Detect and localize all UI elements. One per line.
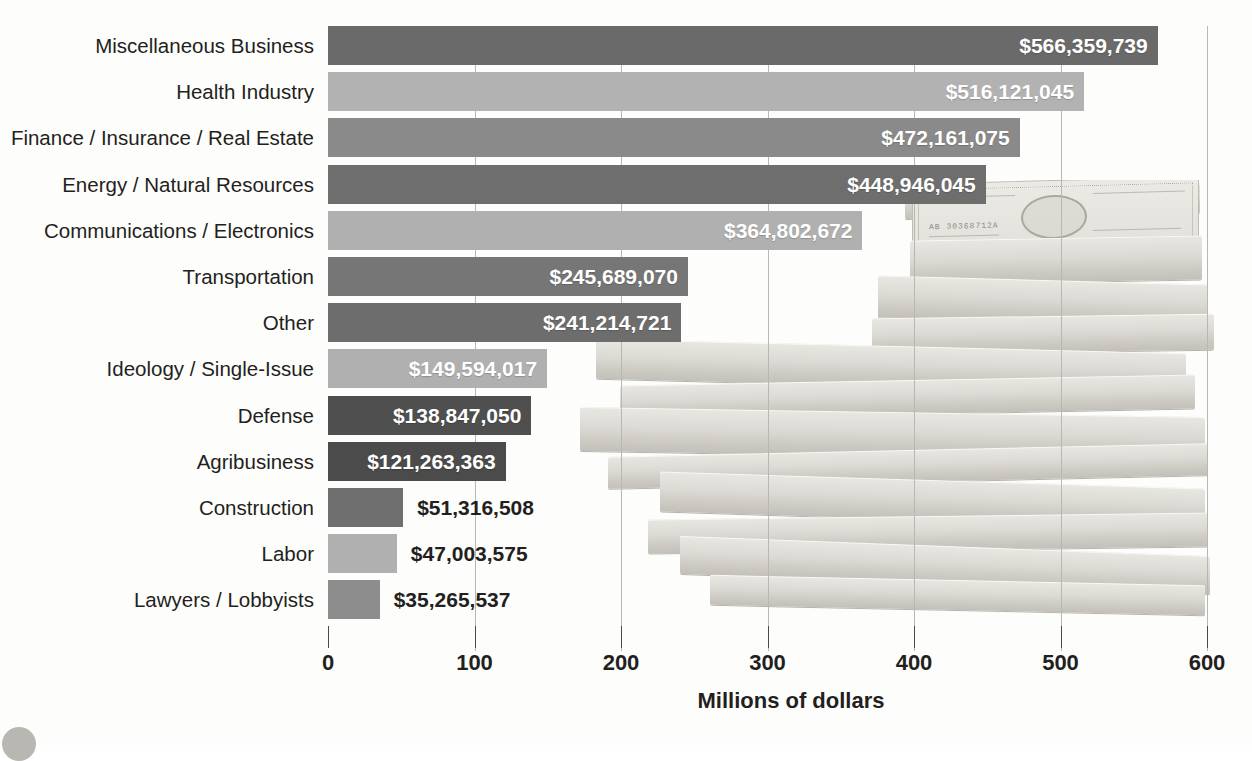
bar-value-label-10: $51,316,508 [417,488,534,527]
bar-row: Transportation$245,689,070 [0,257,1252,296]
bar-value-label-12: $35,265,537 [394,580,511,619]
bar-row: Agribusiness$121,263,363 [0,442,1252,481]
bar-value-label-8: $138,847,050 [393,396,521,435]
x-tick-label-400: 400 [896,650,933,676]
bar-row: Construction$51,316,508 [0,488,1252,527]
bar-value-label-4: $364,802,672 [724,211,852,250]
bar-row: Other$241,214,721 [0,303,1252,342]
category-label-8: Defense [238,396,314,435]
bar-row: Finance / Insurance / Real Estate$472,16… [0,118,1252,157]
category-label-7: Ideology / Single-Issue [107,349,314,388]
corner-decoration-dot [2,727,36,761]
axis-tick-400 [914,626,915,648]
bar-value-label-1: $516,121,045 [946,72,1074,111]
bar-row: Lawyers / Lobbyists$35,265,537 [0,580,1252,619]
x-axis-title-text: Millions of dollars [697,688,884,714]
bar-value-label-0: $566,359,739 [1019,26,1147,65]
bar-row: Labor$47,003,575 [0,534,1252,573]
bar-12[interactable] [328,580,380,619]
bar-value-label-2: $472,161,075 [881,118,1009,157]
category-label-6: Other [263,303,314,342]
bar-value-label-7: $149,594,017 [409,349,537,388]
axis-tick-500 [1061,626,1062,648]
bar-value-label-3: $448,946,045 [847,165,975,204]
category-label-0: Miscellaneous Business [95,26,314,65]
category-label-1: Health Industry [176,72,314,111]
bar-row: Miscellaneous Business$566,359,739 [0,26,1252,65]
category-label-5: Transportation [183,257,314,296]
category-label-11: Labor [262,534,314,573]
x-tick-label-300: 300 [749,650,786,676]
bar-row: Health Industry$516,121,045 [0,72,1252,111]
bar-value-label-9: $121,263,363 [367,442,495,481]
bar-value-label-6: $241,214,721 [543,303,671,342]
axis-tick-0 [328,626,329,648]
bar-row: Energy / Natural Resources$448,946,045 [0,165,1252,204]
category-label-12: Lawyers / Lobbyists [134,580,314,619]
x-tick-label-500: 500 [1042,650,1079,676]
bar-value-label-5: $245,689,070 [549,257,677,296]
x-tick-label-200: 200 [603,650,640,676]
bar-row: Communications / Electronics$364,802,672 [0,211,1252,250]
x-tick-label-100: 100 [456,650,493,676]
bar-row: Ideology / Single-Issue$149,594,017 [0,349,1252,388]
bar-row: Defense$138,847,050 [0,396,1252,435]
x-axis-title: Millions of dollars [0,688,1252,714]
axis-tick-100 [475,626,476,648]
category-label-4: Communications / Electronics [44,211,314,250]
axis-tick-600 [1207,626,1208,648]
bar-10[interactable] [328,488,403,527]
bar-11[interactable] [328,534,397,573]
category-label-10: Construction [199,488,314,527]
axis-tick-300 [768,626,769,648]
x-tick-label-600: 600 [1189,650,1226,676]
category-label-3: Energy / Natural Resources [62,165,314,204]
bar-value-label-11: $47,003,575 [411,534,528,573]
category-label-9: Agribusiness [197,442,314,481]
axis-tick-200 [621,626,622,648]
category-label-2: Finance / Insurance / Real Estate [11,118,314,157]
x-tick-label-0: 0 [322,650,334,676]
